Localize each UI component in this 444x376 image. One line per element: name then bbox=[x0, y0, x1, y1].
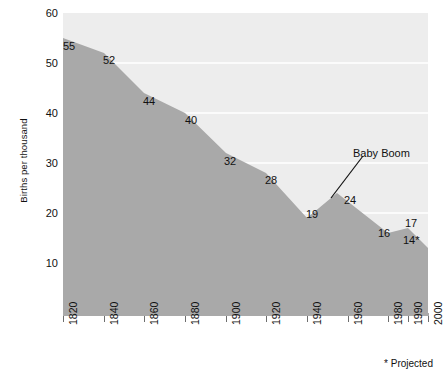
y-tick-label-20: 20 bbox=[24, 208, 58, 219]
plot-area: 55 52 44 40 32 28 19 24 16 17 14* Baby B… bbox=[63, 13, 428, 313]
y-axis-tick-labels: 60 50 40 30 20 10 bbox=[20, 0, 58, 376]
data-label-1860: 44 bbox=[143, 96, 155, 107]
y-tick-label-40: 40 bbox=[24, 108, 58, 119]
data-label-1820: 55 bbox=[63, 41, 75, 52]
x-tick-2000 bbox=[428, 316, 429, 322]
y-tick-label-10: 10 bbox=[24, 258, 58, 269]
data-label-1980: 16 bbox=[378, 228, 390, 239]
data-label-1880: 40 bbox=[185, 115, 197, 126]
x-tick-label-1820: 1820 bbox=[68, 302, 79, 325]
data-label-1955: 24 bbox=[344, 195, 356, 206]
x-tick-label-1880: 1880 bbox=[190, 302, 201, 325]
y-tick-label-30: 30 bbox=[24, 158, 58, 169]
x-tick-1960 bbox=[348, 316, 349, 322]
x-tick-1860 bbox=[144, 316, 145, 322]
data-label-1900: 32 bbox=[224, 156, 236, 167]
data-label-1920: 28 bbox=[265, 175, 277, 186]
x-tick-1900 bbox=[226, 316, 227, 322]
x-tick-label-1900: 1900 bbox=[231, 302, 242, 325]
x-tick-label-1940: 1940 bbox=[312, 302, 323, 325]
x-tick-label-1920: 1920 bbox=[271, 302, 282, 325]
x-tick-1880 bbox=[185, 316, 186, 322]
x-tick-1980 bbox=[388, 316, 389, 322]
baby-boom-annotation: Baby Boom bbox=[353, 148, 410, 159]
x-tick-label-1840: 1840 bbox=[109, 302, 120, 325]
x-tick-1840 bbox=[104, 316, 105, 322]
data-label-1990: 17 bbox=[405, 218, 417, 229]
area-series-svg bbox=[63, 13, 428, 313]
x-tick-1990 bbox=[408, 316, 409, 322]
y-tick-label-60: 60 bbox=[24, 8, 58, 19]
x-tick-label-1980: 1980 bbox=[393, 302, 404, 325]
x-tick-label-1990: 1990 bbox=[413, 302, 424, 325]
x-tick-1940 bbox=[307, 316, 308, 322]
y-tick-label-50: 50 bbox=[24, 58, 58, 69]
data-label-1940: 19 bbox=[306, 209, 318, 220]
x-tick-1920 bbox=[266, 316, 267, 322]
x-tick-1820 bbox=[63, 316, 64, 322]
area-fill-path bbox=[63, 38, 428, 313]
data-label-2000: 14* bbox=[403, 235, 420, 246]
x-tick-label-1860: 1860 bbox=[149, 302, 160, 325]
x-tick-label-1960: 1960 bbox=[353, 302, 364, 325]
x-tick-label-2000: 2000 bbox=[433, 302, 444, 325]
data-label-1840: 52 bbox=[103, 55, 115, 66]
footnote-projected: * Projected bbox=[384, 358, 433, 369]
